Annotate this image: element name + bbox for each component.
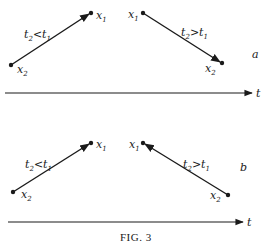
time-axis-label-a: t <box>256 87 261 100</box>
relation-a-left: t2<t1 <box>24 28 51 43</box>
point-x1-a-left <box>89 11 93 15</box>
panel-a: x1 x2 t2<t1 x1 x2 t2>t1 a t <box>5 8 261 100</box>
point-x2-a-right <box>220 61 224 65</box>
panel-label-b: b <box>240 161 247 174</box>
label-x1-a-right: x1 <box>128 8 139 23</box>
time-axis-label-b: t <box>247 216 252 229</box>
point-x1-b-right <box>141 141 145 145</box>
label-x1-b-left: x1 <box>96 138 107 153</box>
panel-label-a: a <box>252 48 259 61</box>
point-x1-b-left <box>89 141 93 145</box>
relation-b-right: t2>t1 <box>183 158 210 173</box>
relation-a-right: t2>t1 <box>181 26 208 41</box>
label-x1-b-right: x1 <box>129 138 140 153</box>
point-x2-b-right <box>226 193 230 197</box>
figure-3-diagram: x1 x2 t2<t1 x1 x2 t2>t1 a t x1 x2 t2<t1 … <box>0 0 267 245</box>
label-x1-a-left: x1 <box>96 9 107 24</box>
relation-b-left: t2<t1 <box>25 158 52 173</box>
panel-b: x1 x2 t2<t1 x1 x2 t2>t1 b t <box>8 138 252 229</box>
point-x1-a-right <box>141 11 145 15</box>
figure-caption: FIG. 3 <box>120 231 152 243</box>
label-x2-b-left: x2 <box>21 188 32 203</box>
label-x2-a-right: x2 <box>205 62 216 77</box>
point-x2-b-left <box>11 190 15 194</box>
point-x2-a-left <box>9 63 13 67</box>
label-x2-b-right: x2 <box>210 189 221 204</box>
label-x2-a-left: x2 <box>17 63 28 78</box>
